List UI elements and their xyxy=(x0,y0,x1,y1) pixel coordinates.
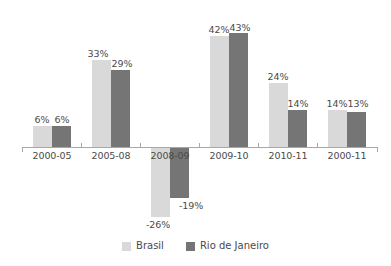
bar-rio-2009-10[interactable] xyxy=(229,33,248,147)
axis-tick-1 xyxy=(81,143,82,148)
value-label-rio-2009-10: 43% xyxy=(223,22,257,33)
legend-label-rio-de-janeiro: Rio de Janeiro xyxy=(200,240,269,252)
axis-tick-4 xyxy=(258,143,259,148)
value-label-rio-2005-08: 29% xyxy=(105,58,139,69)
bar-brasil-2010-11[interactable] xyxy=(269,83,288,147)
value-label-brasil-2008-09: -26% xyxy=(141,219,175,230)
value-label-rio-2010-11: 14% xyxy=(281,98,315,109)
legend-swatch-brasil-icon xyxy=(122,242,131,251)
axis-tick-3 xyxy=(199,143,200,148)
legend-item-rio-de-janeiro[interactable]: Rio de Janeiro xyxy=(186,240,269,252)
category-axis-line xyxy=(22,147,378,148)
axis-tick-5 xyxy=(317,143,318,148)
plot-area: 2000-05 2005-08 2008-09 2009-10 2010-11 … xyxy=(0,0,391,232)
value-label-brasil-2010-11: 24% xyxy=(261,71,295,82)
value-label-rio-2008-09: -19% xyxy=(174,200,208,211)
chart-legend: Brasil Rio de Janeiro xyxy=(0,240,391,252)
category-label-2000-11: 2000-11 xyxy=(312,150,382,162)
bar-brasil-2009-10[interactable] xyxy=(210,36,229,147)
bar-rio-2000-11[interactable] xyxy=(347,112,366,147)
value-label-rio-2000-11: 13% xyxy=(341,98,375,109)
bar-brasil-2000-05[interactable] xyxy=(33,126,52,147)
value-label-rio-2000-05: 6% xyxy=(45,114,79,125)
bar-chart: 2000-05 2005-08 2008-09 2009-10 2010-11 … xyxy=(0,0,391,266)
bar-rio-2000-05[interactable] xyxy=(52,126,71,147)
legend-swatch-rio-icon xyxy=(186,242,195,251)
legend-item-brasil[interactable]: Brasil xyxy=(122,240,164,252)
axis-tick-2 xyxy=(140,143,141,148)
legend-label-brasil: Brasil xyxy=(136,240,164,252)
bar-brasil-2005-08[interactable] xyxy=(92,60,111,147)
bar-brasil-2000-11[interactable] xyxy=(328,110,347,147)
bar-rio-2010-11[interactable] xyxy=(288,110,307,147)
bar-rio-2005-08[interactable] xyxy=(111,70,130,147)
